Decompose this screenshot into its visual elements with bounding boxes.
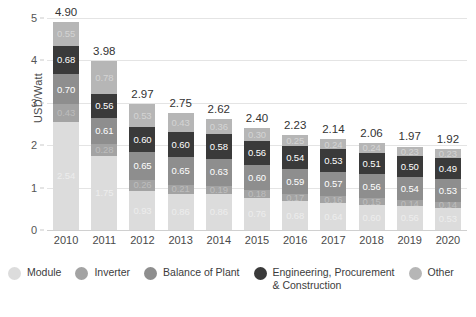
bar-segment[interactable]: 0.19 bbox=[206, 186, 232, 194]
bar-segment[interactable]: 0.93 bbox=[129, 191, 155, 230]
bar-segment-value: 0.23 bbox=[401, 147, 419, 157]
legend-item[interactable]: Inverter bbox=[75, 266, 130, 280]
bar-segment[interactable]: 0.54 bbox=[397, 177, 423, 200]
x-axis-ticks: 2010201120122013201420152016201720182019… bbox=[47, 232, 467, 252]
bar-segment[interactable]: 0.43 bbox=[53, 104, 79, 122]
bar-segment[interactable]: 0.26 bbox=[129, 180, 155, 191]
bar-segment[interactable]: 0.56 bbox=[91, 94, 117, 118]
bar-total-label: 2.40 bbox=[246, 112, 268, 124]
bar-segment[interactable]: 0.60 bbox=[168, 132, 194, 157]
legend-swatch-icon bbox=[75, 267, 88, 280]
bar-segment[interactable]: 0.59 bbox=[282, 169, 308, 194]
bar-segment[interactable]: 0.68 bbox=[53, 46, 79, 75]
bar-segment[interactable]: 0.14 bbox=[397, 200, 423, 206]
bar-segment[interactable]: 0.18 bbox=[244, 190, 270, 198]
bar-segment[interactable]: 0.58 bbox=[206, 134, 232, 159]
legend-label: Balance of Plant bbox=[163, 266, 239, 279]
bar-segment[interactable]: 0.53 bbox=[320, 149, 346, 171]
bar-segment[interactable]: 0.28 bbox=[91, 144, 117, 156]
bar-segment[interactable]: 0.65 bbox=[168, 157, 194, 185]
bar-segment[interactable]: 0.24 bbox=[320, 139, 346, 149]
bar-segment[interactable]: 0.61 bbox=[91, 118, 117, 144]
bar-segment-value: 0.50 bbox=[401, 162, 419, 172]
bar-segment[interactable]: 0.57 bbox=[320, 172, 346, 196]
bar-segment[interactable]: 0.60 bbox=[359, 205, 385, 230]
bar-segment[interactable]: 0.43 bbox=[168, 113, 194, 131]
bar-total-label: 2.75 bbox=[169, 97, 191, 109]
bar-segment[interactable]: 0.15 bbox=[359, 198, 385, 204]
y-tick-mark bbox=[40, 145, 44, 146]
bar-group[interactable]: 0.560.140.540.500.23 bbox=[397, 147, 423, 230]
bar-segment[interactable]: 0.16 bbox=[320, 196, 346, 203]
legend-item[interactable]: Engineering, Procurement & Construction bbox=[254, 266, 395, 292]
bar-segment[interactable]: 0.60 bbox=[129, 127, 155, 152]
gridline bbox=[47, 230, 467, 231]
bar-segment[interactable]: 0.25 bbox=[282, 135, 308, 146]
bar-segment[interactable]: 0.54 bbox=[282, 146, 308, 169]
bar-segment[interactable]: 1.75 bbox=[91, 156, 117, 230]
bar-segment-value: 0.56 bbox=[95, 101, 113, 111]
bar-segment[interactable]: 0.53 bbox=[435, 179, 461, 201]
bar-segment[interactable]: 0.50 bbox=[397, 156, 423, 177]
bar-segment[interactable]: 0.86 bbox=[168, 194, 194, 230]
y-tick-mark bbox=[40, 18, 44, 19]
bar-segment[interactable]: 0.60 bbox=[244, 165, 270, 190]
bar-segment-value: 0.54 bbox=[286, 153, 304, 163]
legend-item[interactable]: Module bbox=[8, 266, 61, 280]
bar-segment-value: 0.43 bbox=[172, 118, 190, 128]
bar-segment[interactable]: 2.54 bbox=[53, 122, 79, 230]
bar-group[interactable]: 1.750.280.610.560.78 bbox=[91, 61, 117, 230]
bar-segment-value: 0.60 bbox=[248, 173, 266, 183]
x-tick-label: 2020 bbox=[436, 234, 460, 246]
bar-segment-value: 0.64 bbox=[324, 212, 342, 222]
bar-segment[interactable]: 0.23 bbox=[397, 147, 423, 157]
bar-segment[interactable]: 0.36 bbox=[206, 119, 232, 134]
bar-group[interactable]: 0.680.170.590.540.25 bbox=[282, 135, 308, 230]
bar-segment[interactable]: 0.23 bbox=[435, 149, 461, 159]
bar-segment[interactable]: 0.51 bbox=[359, 153, 385, 175]
bar-group[interactable]: 0.530.140.530.490.23 bbox=[435, 149, 461, 230]
x-tick-label: 2013 bbox=[168, 234, 192, 246]
bar-segment[interactable]: 0.63 bbox=[206, 159, 232, 186]
bar-segment[interactable]: 0.53 bbox=[129, 104, 155, 126]
bar-segment[interactable]: 0.56 bbox=[397, 206, 423, 230]
bar-segment[interactable]: 0.14 bbox=[435, 202, 461, 208]
y-tick-label: 5 bbox=[31, 12, 37, 24]
bar-segment-value: 0.14 bbox=[439, 202, 457, 208]
bar-segment-value: 0.19 bbox=[210, 186, 228, 194]
y-tick-label: 1 bbox=[31, 182, 37, 194]
bar-group[interactable]: 0.760.180.600.560.30 bbox=[244, 128, 270, 230]
bar-segment[interactable]: 0.78 bbox=[91, 61, 117, 94]
bar-group[interactable]: 2.540.430.700.680.55 bbox=[53, 22, 79, 230]
bar-group[interactable]: 0.640.160.570.530.24 bbox=[320, 139, 346, 230]
bar-group[interactable]: 0.600.150.560.510.24 bbox=[359, 143, 385, 230]
bar-group[interactable]: 0.860.210.650.600.43 bbox=[168, 113, 194, 230]
bar-segment[interactable]: 0.64 bbox=[320, 203, 346, 230]
bar-group[interactable]: 0.860.190.630.580.36 bbox=[206, 119, 232, 230]
bar-segment-value: 0.55 bbox=[57, 29, 75, 39]
bar-segment[interactable]: 0.30 bbox=[244, 128, 270, 141]
bar-total-label: 2.23 bbox=[284, 119, 306, 131]
bar-segment[interactable]: 0.56 bbox=[244, 141, 270, 165]
legend-item[interactable]: Other bbox=[409, 266, 454, 280]
bar-segment[interactable]: 0.17 bbox=[282, 194, 308, 201]
bar-segment[interactable]: 0.24 bbox=[359, 143, 385, 153]
bar-segment[interactable]: 0.53 bbox=[435, 208, 461, 230]
bar-segment[interactable]: 0.21 bbox=[168, 185, 194, 194]
bar-group[interactable]: 0.930.260.650.600.53 bbox=[129, 104, 155, 230]
bar-segment[interactable]: 0.70 bbox=[53, 74, 79, 104]
bar-segment[interactable]: 0.86 bbox=[206, 194, 232, 230]
bar-segment[interactable]: 0.65 bbox=[129, 152, 155, 180]
bar-segment-value: 0.25 bbox=[286, 136, 304, 146]
bar-segment[interactable]: 0.56 bbox=[359, 174, 385, 198]
bar-segment[interactable]: 0.68 bbox=[282, 201, 308, 230]
bar-segment-value: 0.26 bbox=[133, 180, 151, 190]
bar-segment-value: 0.86 bbox=[172, 207, 190, 217]
bar-segment[interactable]: 0.55 bbox=[53, 22, 79, 45]
bar-series-container: 2.540.430.700.680.554.901.750.280.610.56… bbox=[47, 18, 467, 230]
legend-swatch-icon bbox=[254, 267, 267, 280]
legend-item[interactable]: Balance of Plant bbox=[144, 266, 239, 280]
bar-segment-value: 0.70 bbox=[57, 85, 75, 95]
bar-segment[interactable]: 0.76 bbox=[244, 198, 270, 230]
bar-segment[interactable]: 0.49 bbox=[435, 158, 461, 179]
